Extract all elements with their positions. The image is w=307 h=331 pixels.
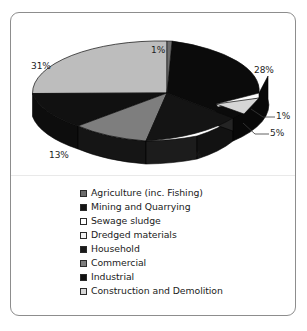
pct-label-sewage: 1% <box>276 111 290 121</box>
legend-label: Agriculture (inc. Fishing) <box>91 188 203 197</box>
legend-item-sewage-sludge[interactable]: Sewage sludge <box>0 214 307 228</box>
legend-label: Commercial <box>91 258 146 267</box>
legend-label: Industrial <box>91 272 134 281</box>
legend-item-dredged-materials[interactable]: Dredged materials <box>0 228 307 242</box>
section-divider <box>11 175 295 176</box>
legend-swatch-icon <box>80 274 87 281</box>
legend-item-industrial[interactable]: Industrial <box>0 270 307 284</box>
chart-legend: Agriculture (inc. Fishing) Mining and Qu… <box>0 186 307 298</box>
legend-swatch-icon <box>80 204 87 211</box>
legend-label: Sewage sludge <box>91 216 161 225</box>
legend-item-construction-demolition[interactable]: Construction and Demolition <box>0 284 307 298</box>
legend-label: Construction and Demolition <box>91 286 223 295</box>
legend-item-agriculture[interactable]: Agriculture (inc. Fishing) <box>0 186 307 200</box>
pct-label-household: 9% <box>187 150 201 160</box>
legend-label: Household <box>91 244 140 253</box>
legend-label: Dredged materials <box>91 230 177 239</box>
pct-label-construction: 31% <box>31 61 51 71</box>
legend-swatch-icon <box>80 190 87 197</box>
pct-label-industrial: 13% <box>49 150 69 160</box>
legend-label: Mining and Quarrying <box>91 202 191 211</box>
chart-figure: 1% 28% 1% 5% 9% 13% 31% Agriculture (inc… <box>0 0 307 331</box>
legend-swatch-icon <box>80 288 87 295</box>
legend-swatch-icon <box>80 246 87 253</box>
legend-item-household[interactable]: Household <box>0 242 307 256</box>
pct-label-dredged: 5% <box>270 128 284 138</box>
legend-swatch-icon <box>80 218 87 225</box>
legend-swatch-icon <box>80 232 87 239</box>
pct-label-agriculture: 1% <box>151 45 165 55</box>
pie-plot-area: 1% 28% 1% 5% 9% 13% 31% <box>11 13 295 175</box>
pct-label-mining: 28% <box>254 65 274 75</box>
legend-item-commercial[interactable]: Commercial <box>0 256 307 270</box>
pie-slice-construction <box>32 41 167 94</box>
legend-swatch-icon <box>80 260 87 267</box>
legend-item-mining[interactable]: Mining and Quarrying <box>0 200 307 214</box>
